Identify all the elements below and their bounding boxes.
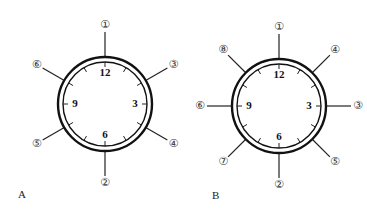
hour-numeral-3: 3 — [306, 99, 312, 111]
marker-line — [43, 128, 65, 141]
panel-letter: A — [18, 188, 26, 200]
marker-label: ④ — [330, 43, 340, 56]
marker-label: ⑤ — [330, 155, 340, 168]
marker-label: ⑤ — [32, 137, 42, 150]
marker-label: ② — [100, 176, 110, 189]
panel-letter: B — [212, 189, 219, 201]
clock-diagram: ①③④②⑤⑥36912A①④③⑤②⑦⑥⑧36912B — [0, 0, 367, 214]
marker-label: ⑥ — [195, 99, 205, 112]
marker-line — [43, 68, 65, 81]
marker-label: ① — [274, 20, 284, 33]
marker-line — [312, 139, 330, 157]
marker-label: ⑦ — [218, 155, 228, 168]
clock-panel-b: ①④③⑤②⑦⑥⑧36912B — [195, 20, 363, 201]
hour-numeral-9: 9 — [72, 97, 78, 109]
marker-label: ② — [274, 178, 284, 191]
marker-line — [146, 128, 168, 141]
marker-line — [312, 55, 330, 73]
marker-label: ⑧ — [218, 43, 228, 56]
marker-line — [228, 55, 246, 73]
marker-line — [228, 139, 246, 157]
diagram-canvas: ①③④②⑤⑥36912A①④③⑤②⑦⑥⑧36912B — [0, 0, 367, 214]
hour-numeral-6: 6 — [276, 130, 282, 142]
marker-line — [146, 68, 168, 81]
hour-numeral-9: 9 — [246, 99, 252, 111]
marker-label: ③ — [168, 58, 178, 71]
hour-numeral-12: 12 — [274, 68, 286, 80]
marker-label: ③ — [353, 99, 363, 112]
marker-label: ④ — [168, 137, 178, 150]
marker-label: ① — [100, 18, 110, 31]
clock-panel-a: ①③④②⑤⑥36912A — [18, 18, 178, 200]
hour-numeral-3: 3 — [132, 97, 138, 109]
marker-label: ⑥ — [32, 58, 42, 71]
hour-numeral-6: 6 — [102, 128, 108, 140]
hour-numeral-12: 12 — [100, 66, 112, 78]
